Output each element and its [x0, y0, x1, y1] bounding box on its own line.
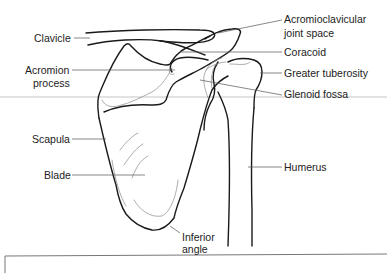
figure-frame-bottom: [5, 254, 387, 273]
label-glenoid-fossa: Glenoid fossa: [284, 88, 348, 100]
label-coracoid: Coracoid: [284, 46, 326, 58]
label-greater-tuberosity: Greater tuberosity: [284, 67, 369, 79]
leader-ac-joint: [218, 20, 282, 33]
label-ac-joint-line1: Acromioclavicular: [284, 13, 367, 25]
label-humerus: Humerus: [284, 161, 327, 173]
label-inferior-angle-line2: angle: [182, 243, 208, 255]
label-inferior-angle-line1: Inferior: [182, 231, 215, 243]
label-acromion-line2: process: [33, 77, 70, 89]
leader-inferior-angle: [170, 226, 180, 233]
label-acromion-line1: Acromion: [25, 64, 70, 76]
label-clavicle: Clavicle: [34, 32, 71, 44]
leader-glenoid-fossa: [200, 80, 282, 95]
shoulder-anatomy-diagram: Clavicle Acromion process Scapula Blade …: [0, 0, 387, 273]
label-scapula: Scapula: [32, 133, 70, 145]
label-blade: Blade: [44, 169, 71, 181]
label-ac-joint-line2: joint space: [283, 27, 334, 39]
clavicle-bone: [86, 30, 215, 55]
